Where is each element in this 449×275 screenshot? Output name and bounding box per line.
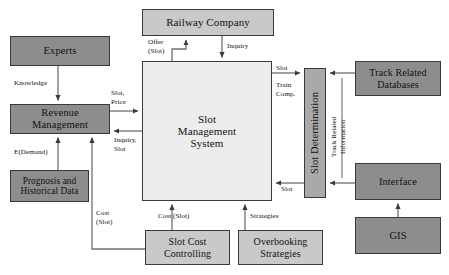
edge-label-slot-return: Slot [281,185,293,194]
node-slot-management-system[interactable]: Slot Management System [142,61,272,201]
node-slot-determination[interactable]: Slot Determination [304,68,326,198]
node-gis-label: GIS [389,230,406,242]
node-experts[interactable]: Experts [10,36,110,66]
node-slot-management-system-label: Slot Management System [178,113,236,150]
diagram-canvas: Experts Revenue Management Prognosis and… [0,0,449,275]
node-interface-label: Interface [379,176,417,188]
edge-label-knowledge: Knowledge [14,79,47,88]
edge-label-track-related-information: Track Related Information [330,100,347,174]
node-experts-label: Experts [44,45,77,57]
node-slot-determination-label: Slot Determination [309,92,321,174]
edge-label-e-demand: E(Demand) [14,148,48,157]
edge-label-cost-slot-center: Cost (Slot) [158,212,190,221]
node-interface[interactable]: Interface [355,163,441,200]
node-track-related-databases[interactable]: Track Related Databases [355,61,441,96]
node-railway-company-label: Railway Company [166,16,250,28]
edge-label-strategies: Strategies [250,212,278,221]
node-track-related-databases-label: Track Related Databases [369,67,426,89]
edge-label-slot-train-comp: Slot Train Comp. [276,64,295,99]
node-slot-cost-controlling-label: Slot Cost Controlling [164,236,211,258]
edge-sms-to-railway [172,40,186,61]
edge-slotcost-to-revenue [92,138,145,250]
node-overbooking-strategies[interactable]: Overbooking Strategies [238,230,323,265]
node-revenue-management[interactable]: Revenue Management [10,104,110,134]
node-prognosis-historical-data[interactable]: Prognosis and Historical Data [10,170,89,202]
edge-label-slot-price: Slot, Price [111,89,126,106]
node-overbooking-strategies-label: Overbooking Strategies [254,236,308,258]
node-gis[interactable]: GIS [355,217,441,254]
edge-label-offer-slot: Offer (Slot) [148,38,164,55]
node-slot-cost-controlling[interactable]: Slot Cost Controlling [145,230,230,265]
edge-label-cost-slot-left: Cost (Slot) [96,209,112,226]
node-prognosis-label: Prognosis and Historical Data [20,176,78,197]
node-railway-company[interactable]: Railway Company [142,9,274,36]
edge-label-inquiry: Inquiry [227,42,248,51]
edge-label-inquiry-slot: Inquiry, Slot [114,136,137,153]
node-revenue-management-label: Revenue Management [32,107,88,131]
